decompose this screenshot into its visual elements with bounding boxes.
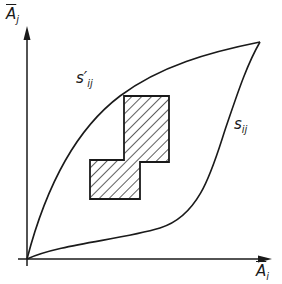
diagram-canvas <box>0 0 282 284</box>
curve-label-s-prime-base: s <box>76 69 84 87</box>
y-axis <box>24 26 31 266</box>
y-axis-arrow-icon <box>24 26 31 40</box>
y-axis-label: Aj <box>6 6 19 25</box>
y-axis-label-base: A <box>6 5 16 23</box>
x-axis-label-base: A <box>256 262 266 280</box>
curve-label-s-prime-subscript: ij <box>87 78 93 89</box>
curve-label-s-ij: sij <box>234 116 247 135</box>
x-axis <box>18 256 272 263</box>
curve-label-s-prime-ij: s′ij <box>76 70 93 89</box>
curve-label-s-base: s <box>234 115 242 133</box>
x-axis-label-subscript: i <box>266 271 269 282</box>
curve-label-s-subscript: ij <box>242 124 248 135</box>
y-axis-label-subscript: j <box>16 14 19 25</box>
x-axis-label: Ai <box>256 263 269 282</box>
